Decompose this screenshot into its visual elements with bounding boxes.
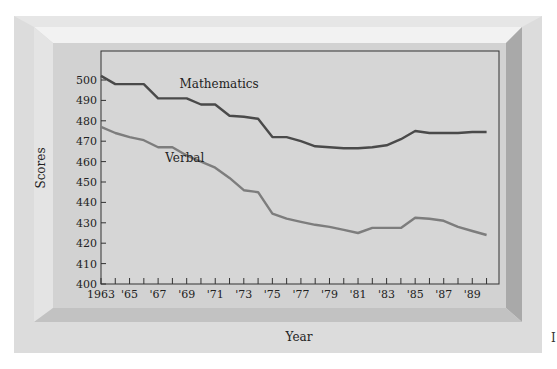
bevel-right	[506, 27, 522, 322]
frame-top-outer	[14, 16, 542, 27]
y-tick-label: 450	[76, 176, 97, 189]
y-axis-title: Scores	[34, 147, 48, 188]
plot-area	[101, 51, 499, 284]
x-tick-label: '77	[292, 288, 309, 301]
bevel-bottom	[34, 308, 522, 322]
x-tick-label: 1963	[87, 288, 115, 301]
x-tick-label: '89	[464, 288, 481, 301]
y-tick-label: 480	[76, 115, 97, 128]
x-tick-label: '87	[435, 288, 452, 301]
label-verbal: Verbal	[164, 151, 204, 165]
x-tick-label: '69	[178, 288, 195, 301]
y-tick-label: 460	[76, 156, 97, 169]
x-tick-label: '81	[350, 288, 367, 301]
x-tick-label: '67	[150, 288, 167, 301]
x-tick-label: '73	[235, 288, 252, 301]
y-tick-label: 490	[76, 94, 97, 107]
y-tick-label: 410	[76, 258, 97, 271]
y-tick-label: 420	[76, 237, 97, 250]
y-tick-label: 440	[76, 196, 97, 209]
label-mathematics: Mathematics	[180, 77, 259, 91]
x-tick-label: '75	[264, 288, 281, 301]
y-tick-label: 470	[76, 135, 97, 148]
bevel-top	[34, 27, 522, 43]
y-tick-label: 500	[76, 74, 97, 87]
x-tick-label: '85	[407, 288, 424, 301]
x-tick-label: '79	[321, 288, 338, 301]
x-tick-label: '65	[121, 288, 138, 301]
x-axis-title: Year	[286, 330, 313, 344]
clipped-text-fragment: I	[551, 331, 556, 345]
x-tick-label: '83	[378, 288, 395, 301]
y-tick-label: 430	[76, 217, 97, 230]
line-chart: 400410420430440450460470480490500 1963'6…	[0, 0, 557, 369]
x-tick-label: '71	[207, 288, 224, 301]
